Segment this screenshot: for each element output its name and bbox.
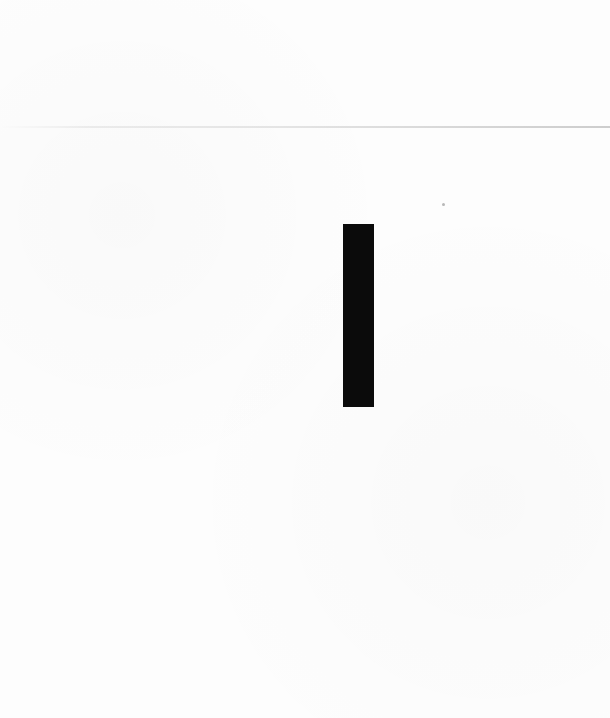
- scan-speck: [442, 203, 445, 206]
- faint-horizontal-rule: [0, 126, 610, 128]
- scanned-page: [0, 0, 610, 718]
- vertical-black-bar: [343, 224, 374, 407]
